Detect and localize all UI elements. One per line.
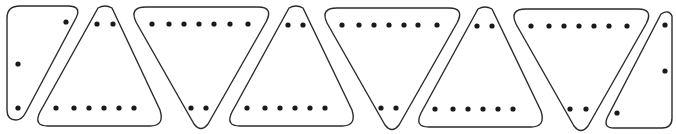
piece-down-3-top-dot-2 (546, 23, 551, 28)
piece-up-3-bottom-dot-5 (495, 106, 500, 111)
piece-down-1-top-dot-5 (211, 21, 216, 26)
piece-right-half-top-dot-1 (662, 22, 667, 27)
piece-up-3-bottom-dot-4 (480, 106, 485, 111)
piece-up-1-top-dot-2 (110, 21, 115, 26)
piece-down-1-top-dot-4 (196, 21, 201, 26)
piece-up-3-bottom-dot-1 (432, 106, 437, 111)
piece-down-1-top-dot-6 (227, 21, 232, 26)
piece-down-1-bottom-dot-2 (203, 105, 208, 110)
triangle-strip-diagram (0, 0, 676, 134)
piece-left-half-bottom-dot-1 (15, 105, 20, 110)
piece-up-2-bottom-dot-3 (277, 105, 282, 110)
piece-down-2-top-dot-5 (401, 22, 406, 27)
piece-down-3-top-dot-4 (576, 23, 581, 28)
piece-down-3-top-dot-3 (561, 23, 566, 28)
piece-down-2-top-dot-7 (434, 22, 439, 27)
piece-up-1-bottom-dot-6 (131, 105, 136, 110)
piece-down-1-top-dot-3 (181, 21, 186, 26)
piece-down-3-bottom-dot-2 (583, 106, 588, 111)
piece-up-1-bottom-dot-2 (71, 105, 76, 110)
piece-down-1-bottom-dot-1 (188, 105, 193, 110)
piece-left-half-side-dot-1 (15, 61, 20, 66)
piece-down-3-top-dot-1 (528, 23, 533, 28)
piece-down-2-top-dot-1 (339, 22, 344, 27)
piece-down-1-top-dot-2 (166, 21, 171, 26)
piece-down-1-top-dot-7 (245, 21, 250, 26)
piece-down-3-bottom-dot-1 (567, 106, 572, 111)
piece-up-2-bottom-dot-6 (322, 105, 327, 110)
piece-right-half-bottom-dot-1 (614, 110, 619, 115)
piece-right-half-side-dot-1 (662, 68, 667, 73)
piece-down-3-top-dot-6 (606, 23, 611, 28)
piece-down-3-top-dot-7 (624, 23, 629, 28)
piece-down-2-top-dot-2 (356, 22, 361, 27)
piece-right-half-outline (606, 12, 672, 128)
piece-up-3-bottom-dot-6 (510, 106, 515, 111)
piece-up-3-bottom-dot-3 (465, 106, 470, 111)
piece-up-3-bottom-dot-2 (450, 106, 455, 111)
piece-up-1-bottom-dot-1 (53, 105, 58, 110)
dots-layer (15, 19, 667, 115)
piece-up-2-bottom-dot-2 (262, 105, 267, 110)
piece-up-3-top-dot-2 (489, 23, 494, 28)
piece-up-2-bottom-dot-5 (307, 105, 312, 110)
piece-down-2-outline (325, 8, 460, 130)
piece-up-2-bottom-dot-4 (292, 105, 297, 110)
piece-down-2-top-dot-3 (371, 22, 376, 27)
piece-down-2-top-dot-4 (386, 22, 391, 27)
piece-down-2-bottom-dot-2 (393, 105, 398, 110)
piece-up-1-bottom-dot-3 (86, 105, 91, 110)
piece-up-2-top-dot-1 (285, 22, 290, 27)
piece-up-2-top-dot-2 (300, 22, 305, 27)
piece-up-1-top-dot-1 (94, 21, 99, 26)
piece-left-half-top-dot-1 (63, 19, 68, 24)
piece-up-1-bottom-dot-5 (116, 105, 121, 110)
piece-down-1-top-dot-1 (149, 21, 154, 26)
piece-down-3-top-dot-5 (591, 23, 596, 28)
piece-down-2-bottom-dot-1 (378, 105, 383, 110)
piece-up-1-bottom-dot-4 (101, 105, 106, 110)
piece-down-2-top-dot-6 (415, 22, 420, 27)
piece-up-3-top-dot-1 (474, 23, 479, 28)
piece-up-2-bottom-dot-1 (244, 105, 249, 110)
